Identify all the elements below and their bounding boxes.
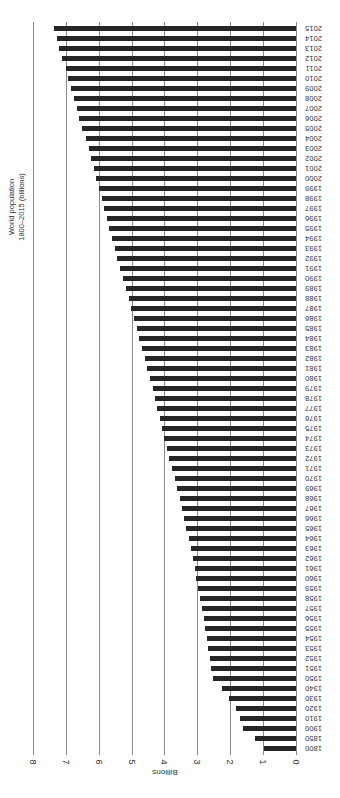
bar — [79, 116, 296, 121]
year-label: 1960 — [300, 573, 322, 583]
year-label: 1981 — [300, 363, 322, 373]
bar — [96, 176, 296, 181]
year-label: 1954 — [300, 633, 322, 643]
value-axis-title: Billions — [145, 766, 185, 778]
year-label: 2007 — [300, 103, 322, 113]
year-label: 1975 — [300, 423, 322, 433]
bar — [177, 486, 296, 491]
year-label: 1900 — [300, 723, 322, 733]
bar — [71, 86, 296, 91]
year-label: 1952 — [300, 653, 322, 663]
year-label: 1992 — [300, 253, 322, 263]
bar-chart: World population 1800–2015 (billions) 01… — [0, 0, 340, 798]
year-label: 1910 — [300, 713, 322, 723]
year-label: 1991 — [300, 263, 322, 273]
tick-label: 7 — [60, 755, 72, 769]
bar — [162, 426, 296, 431]
year-label: 1920 — [300, 703, 322, 713]
bar — [164, 436, 296, 441]
year-label: 1977 — [300, 403, 322, 413]
bar — [255, 736, 296, 741]
year-label: 1959 — [300, 583, 322, 593]
bar — [150, 376, 296, 381]
bar — [213, 676, 296, 681]
bar — [167, 446, 296, 451]
gridline — [296, 22, 297, 755]
year-label: 2006 — [300, 113, 322, 123]
bar — [204, 616, 296, 621]
bar — [202, 606, 296, 611]
bar — [210, 656, 296, 661]
bar — [222, 686, 296, 691]
year-label: 1973 — [300, 443, 322, 453]
bar — [104, 206, 296, 211]
bar — [134, 316, 296, 321]
bar — [182, 506, 296, 511]
bar — [102, 196, 296, 201]
year-label: 2012 — [300, 53, 322, 63]
year-label: 1988 — [300, 293, 322, 303]
year-label: 1956 — [300, 613, 322, 623]
bar — [115, 246, 296, 251]
bar — [207, 636, 296, 641]
year-label: 1958 — [300, 593, 322, 603]
year-label: 1994 — [300, 233, 322, 243]
bar — [59, 46, 296, 51]
bar — [66, 66, 296, 71]
year-label: 1953 — [300, 643, 322, 653]
year-label: 1979 — [300, 383, 322, 393]
year-label: 1997 — [300, 203, 322, 213]
bar — [112, 236, 296, 241]
bar — [184, 516, 296, 521]
bar — [86, 136, 296, 141]
bar — [155, 396, 296, 401]
year-label: 1967 — [300, 503, 322, 513]
year-label: 1964 — [300, 533, 322, 543]
tick-label: 0 — [290, 755, 302, 769]
chart-subtitle-line: 1800–2015 (billions) — [17, 157, 27, 257]
bar — [160, 416, 296, 421]
bar — [198, 586, 296, 591]
year-label: 2015 — [300, 23, 322, 33]
year-label: 2002 — [300, 153, 322, 163]
bar — [211, 666, 296, 671]
year-label: 2008 — [300, 93, 322, 103]
year-label: 1850 — [300, 733, 322, 743]
year-label: 1986 — [300, 313, 322, 323]
bar — [189, 536, 296, 541]
bar — [120, 266, 296, 271]
year-label: 1800 — [300, 743, 322, 753]
bar — [68, 76, 296, 81]
bar — [157, 406, 296, 411]
gridline — [99, 22, 100, 755]
year-label: 1955 — [300, 623, 322, 633]
bar — [139, 336, 296, 341]
bar — [74, 96, 296, 101]
year-label: 1982 — [300, 353, 322, 363]
tick-label: 6 — [93, 755, 105, 769]
bar — [236, 706, 296, 711]
year-label: 1996 — [300, 213, 322, 223]
bar — [109, 226, 296, 231]
bar — [193, 556, 296, 561]
bar — [243, 726, 296, 731]
bar — [175, 476, 296, 481]
year-label: 1969 — [300, 483, 322, 493]
year-label: 2010 — [300, 73, 322, 83]
year-label: 1989 — [300, 283, 322, 293]
year-label: 1976 — [300, 413, 322, 423]
bar — [196, 576, 296, 581]
bar — [94, 166, 296, 171]
bar — [169, 456, 296, 461]
year-label: 1940 — [300, 683, 322, 693]
bar — [62, 56, 296, 61]
year-label: 1951 — [300, 663, 322, 673]
year-label: 1971 — [300, 463, 322, 473]
bar — [54, 26, 296, 31]
chart-title-line: World population — [7, 157, 17, 257]
year-label: 1998 — [300, 193, 322, 203]
bar — [191, 546, 296, 551]
year-label: 1995 — [300, 223, 322, 233]
tick-label: 5 — [126, 755, 138, 769]
bar — [99, 186, 296, 191]
